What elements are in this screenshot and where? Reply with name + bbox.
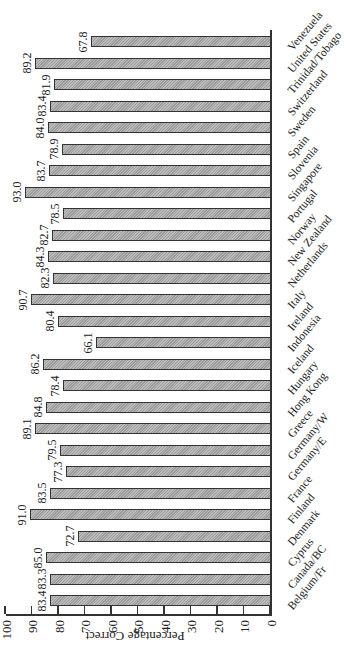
y-tick: [111, 606, 113, 614]
bar-value-label: 82.7: [38, 225, 50, 246]
y-tick: [5, 606, 7, 614]
bar-value-label: 83.7: [35, 160, 47, 181]
y-tick: [164, 606, 166, 614]
bar: [96, 337, 271, 348]
y-tick-label: 10: [238, 620, 251, 633]
bar: [63, 208, 271, 219]
y-tick: [270, 606, 272, 614]
y-tick: [190, 606, 192, 614]
y-axis-label: Percentage Correct: [85, 628, 184, 644]
bar: [43, 359, 271, 370]
bar: [35, 58, 271, 69]
y-tick-label: 20: [212, 620, 225, 633]
y-tick: [31, 606, 33, 614]
bar: [54, 79, 271, 90]
bar-value-label: 83.3: [36, 569, 48, 590]
bar: [63, 380, 271, 391]
bar-value-label: 78.9: [48, 139, 60, 160]
bar-value-label: 89.2: [21, 53, 33, 74]
bar-value-label: 83.4: [36, 590, 48, 611]
bar-value-label: 78.4: [49, 375, 61, 396]
bar: [50, 101, 271, 112]
bar-value-label: 84.0: [34, 117, 46, 138]
y-tick: [243, 606, 245, 614]
bar: [31, 294, 271, 305]
bar-value-label: 78.5: [49, 203, 61, 224]
bar: [25, 187, 271, 198]
y-tick: [58, 606, 60, 614]
bar-value-label: 89.1: [21, 418, 33, 439]
y-tick-label: 90: [26, 620, 39, 633]
y-tick-label: 100: [0, 620, 13, 640]
y-tick-label: 80: [53, 620, 66, 633]
y-tick-label: 30: [185, 620, 198, 633]
y-axis-line: [6, 614, 272, 616]
bar: [48, 251, 271, 262]
bar: [50, 488, 271, 499]
bar-value-label: 84.8: [32, 397, 44, 418]
bar: [60, 445, 271, 456]
bar-value-label: 84.3: [34, 246, 46, 267]
bar-value-label: 79.5: [46, 440, 58, 461]
bar: [50, 574, 271, 585]
bar: [46, 552, 271, 563]
y-tick: [84, 606, 86, 614]
bar-value-label: 86.2: [29, 354, 41, 375]
bar-value-label: 77.3: [52, 461, 64, 482]
y-tick: [137, 606, 139, 614]
y-tick-label: 0: [265, 620, 278, 627]
bar-value-label: 83.5: [36, 483, 48, 504]
bar-value-label: 67.8: [77, 31, 89, 52]
bar-value-label: 90.7: [17, 289, 29, 310]
bar: [53, 273, 271, 284]
bar-value-label: 66.1: [82, 332, 94, 353]
bar-value-label: 93.0: [11, 182, 23, 203]
bar-value-label: 82.3: [39, 268, 51, 289]
bar: [66, 466, 271, 477]
y-tick: [217, 606, 219, 614]
bar-value-label: 85.0: [32, 547, 44, 568]
bar-value-label: 91.0: [16, 504, 28, 525]
bar-value-label: 72.7: [64, 526, 76, 547]
bar-value-label: 83.4: [36, 96, 48, 117]
bar: [35, 423, 271, 434]
bar: [58, 316, 271, 327]
bar: [46, 402, 271, 413]
bar-value-label: 81.9: [40, 74, 52, 95]
bar: [91, 36, 271, 47]
bar: [52, 230, 271, 241]
bar: [50, 595, 271, 606]
bar: [49, 165, 271, 176]
bar: [78, 531, 271, 542]
bar-value-label: 80.4: [44, 311, 56, 332]
bar: [48, 122, 271, 133]
bar: [62, 144, 271, 155]
bar: [30, 509, 271, 520]
